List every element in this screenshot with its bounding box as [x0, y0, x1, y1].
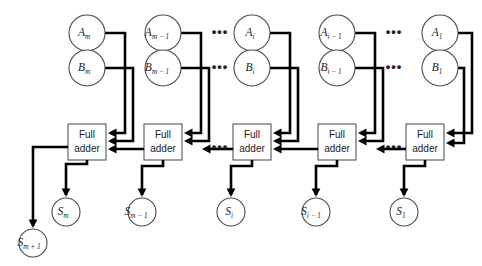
diagram-canvas: Am Bm Full adder Sm Sm + 1 — [0, 0, 482, 266]
full-adder-label-line1-m: Full — [79, 129, 95, 140]
stage-1-group: A1 B1 Full adder S1 — [376, 15, 472, 226]
arrowhead-b-m — [108, 137, 117, 146]
ellipsis-operand-b-right: ••• — [386, 59, 403, 74]
arrowhead-sum-1 — [400, 189, 409, 198]
full-adder-label-line2-i-minus-1: adder — [324, 143, 350, 154]
wire-a-to-adder-i — [270, 33, 290, 133]
wire-a-to-adder-m — [105, 33, 125, 133]
arrowhead-carry-1-left — [376, 145, 385, 154]
arrowhead-b-i — [273, 137, 282, 146]
arrowhead-sum-m — [62, 189, 71, 198]
full-adder-label-line1-i: Full — [244, 129, 260, 140]
ellipsis-operand-a-left: ••• — [212, 24, 229, 39]
ellipsis-operand-a-right: ••• — [386, 24, 403, 39]
ellipsis-operand-b-left: ••• — [212, 59, 229, 74]
full-adder-label-line1-m-minus-1: Full — [155, 129, 171, 140]
arrowhead-carry-i-minus-1-to-i — [273, 145, 282, 154]
full-adder-label-line2-m: adder — [74, 143, 100, 154]
arrowhead-sum-i — [227, 189, 236, 198]
wire-a-to-adder-i-minus-1 — [355, 33, 375, 133]
arrowhead-a-i-minus-1 — [358, 129, 367, 138]
wire-b-to-adder-m-minus-1 — [181, 68, 209, 141]
arrowhead-b-1 — [446, 139, 455, 148]
wire-b-to-adder-i — [270, 68, 298, 141]
full-adder-label-line2-m-minus-1: adder — [150, 143, 176, 154]
wire-b-to-adder-i-minus-1 — [355, 68, 383, 141]
arrowhead-sum-m-minus-1 — [138, 189, 147, 198]
arrowhead-a-i — [273, 129, 282, 138]
ellipsis-carry-left: ••• — [212, 139, 229, 154]
arrowhead-carry-m-minus-1-to-m — [108, 145, 117, 154]
arrowhead-b-i-minus-1 — [358, 137, 367, 146]
ripple-carry-adder-diagram: Am Bm Full adder Sm Sm + 1 — [0, 0, 482, 266]
wire-a-to-adder-m-minus-1 — [181, 33, 201, 133]
arrowhead-a-m — [108, 129, 117, 138]
wire-a-to-adder-1 — [449, 33, 472, 133]
ellipsis-carry-right: ••• — [386, 139, 403, 154]
full-adder-label-line2-i: adder — [239, 143, 265, 154]
arrowhead-a-1 — [446, 129, 455, 138]
full-adder-label-line1-i-minus-1: Full — [329, 129, 345, 140]
arrowhead-b-m-minus-1 — [184, 137, 193, 146]
arrowhead-carry-out-final — [29, 220, 38, 229]
stage-i-group: Ai Bi Full adder Si — [202, 15, 298, 226]
stage-m-minus-1-group: Am − 1 Bm − 1 Full adder Sm − 1 — [108, 15, 209, 226]
full-adder-label-line2-1: adder — [412, 143, 438, 154]
stage-m-group: Am Bm Full adder Sm Sm + 1 — [18, 15, 133, 257]
wire-b-to-adder-m — [105, 68, 133, 141]
full-adder-label-line1-1: Full — [417, 129, 433, 140]
arrowhead-sum-i-minus-1 — [312, 189, 321, 198]
arrowhead-a-m-minus-1 — [184, 129, 193, 138]
